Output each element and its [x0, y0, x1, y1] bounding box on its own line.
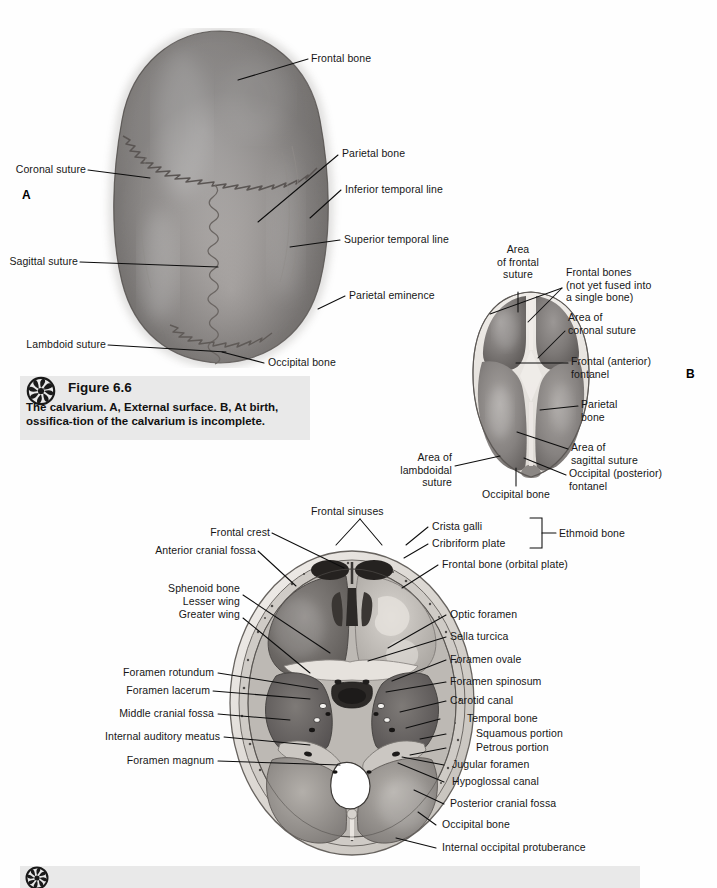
label-sphenoid-bone: Sphenoid bone [120, 582, 240, 595]
label-parietal-bone-b: Parietal bone [581, 398, 617, 423]
label-occipital-bone-b: Occipital bone [470, 488, 562, 501]
calvarium-superior-illustration [96, 28, 346, 368]
label-jugular-foramen: Jugular foramen [452, 758, 529, 771]
label-occipital-bone-c: Occipital bone [442, 818, 510, 831]
label-frontal-sinuses: Frontal sinuses [311, 505, 384, 518]
rosette-icon-2 [24, 866, 56, 888]
label-lambdoid-suture: Lambdoid suture [0, 338, 106, 351]
label-frontal-bone-a: Frontal bone [311, 52, 371, 65]
label-internal-auditory-meatus: Internal auditory meatus [60, 730, 220, 743]
next-figure-caption-box [20, 866, 640, 888]
figure-page: Frontal bone Parietal bone Inferior temp… [0, 0, 717, 888]
figure-number: Figure 6.6 [68, 380, 132, 395]
cranial-base-illustration [228, 548, 476, 858]
label-frontal-crest: Frontal crest [150, 526, 270, 539]
label-sella-turcica: Sella turcica [450, 630, 509, 643]
label-area-of-coronal-suture: Area of coronal suture [568, 311, 636, 336]
label-frontal-bones-unfused: Frontal bones (not yet fused into a sing… [566, 266, 651, 304]
label-parietal-eminence: Parietal eminence [349, 289, 435, 302]
label-superior-temporal-line: Superior temporal line [344, 233, 449, 246]
label-inferior-temporal-line: Inferior temporal line [345, 183, 443, 196]
label-coronal-suture: Coronal suture [0, 163, 86, 176]
label-internal-occipital-protuberance: Internal occipital protuberance [442, 841, 586, 854]
caption-panel-a: A, [109, 401, 121, 413]
label-area-of-sagittal-suture: Area of sagittal suture [571, 441, 638, 466]
figure-caption-box: Figure 6.6 The calvarium. A, External su… [20, 376, 310, 440]
caption-panel-b: B, [220, 401, 232, 413]
label-occipital-bone-a: Occipital bone [268, 356, 336, 369]
label-frontal-bone-orbital-plate: Frontal bone (orbital plate) [442, 558, 568, 571]
label-crista-galli: Crista galli [432, 520, 482, 533]
label-carotid-canal: Carotid canal [450, 694, 513, 707]
label-petrous-portion: Petrous portion [476, 741, 549, 754]
label-temporal-bone: Temporal bone [467, 712, 538, 725]
label-foramen-spinosum: Foramen spinosum [450, 675, 541, 688]
label-squamous-portion: Squamous portion [476, 727, 563, 740]
caption-mid: External surface. [121, 401, 220, 413]
label-sagittal-suture: Sagittal suture [0, 255, 78, 268]
label-foramen-lacerum: Foramen lacerum [92, 684, 210, 697]
label-optic-foramen: Optic foramen [450, 608, 517, 621]
label-area-of-frontal-suture: Area of frontal suture [478, 243, 558, 281]
figure-caption-text: The calvarium. A, External surface. B, A… [26, 400, 306, 428]
label-posterior-cranial-fossa: Posterior cranial fossa [450, 797, 556, 810]
label-ethmoid-bone: Ethmoid bone [559, 527, 625, 540]
label-area-of-lambdoidal-suture: Area of lambdoidal suture [390, 451, 452, 489]
label-frontal-anterior-fontanel: Frontal (anterior) fontanel [571, 355, 651, 380]
label-occipital-posterior-fontanel: Occipital (posterior) fontanel [569, 467, 662, 492]
label-foramen-magnum: Foramen magnum [90, 754, 214, 767]
label-hypoglossal-canal: Hypoglossal canal [452, 775, 539, 788]
label-anterior-cranial-fossa: Anterior cranial fossa [110, 544, 256, 557]
label-foramen-rotundum: Foramen rotundum [90, 666, 214, 679]
label-greater-wing: Greater wing [120, 608, 240, 621]
caption-lead: The calvarium. [26, 401, 109, 413]
label-cribriform-plate: Cribriform plate [432, 537, 505, 550]
panel-letter-b: B [686, 367, 695, 381]
label-middle-cranial-fossa: Middle cranial fossa [80, 707, 214, 720]
label-foramen-ovale: Foramen ovale [450, 653, 521, 666]
panel-letter-a: A [22, 188, 31, 202]
label-lesser-wing: Lesser wing [120, 595, 240, 608]
caption-line2: tion of the calvarium is incomplete. [73, 415, 265, 427]
label-parietal-bone-a: Parietal bone [342, 147, 405, 160]
